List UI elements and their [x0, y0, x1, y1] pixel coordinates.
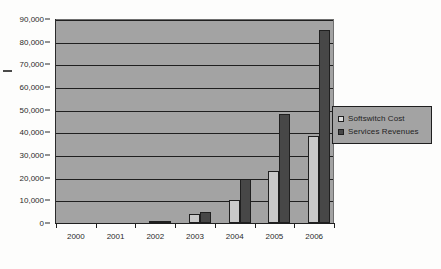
y-axis-tick-label: 40,000	[20, 128, 44, 137]
chart-legend: Softswitch CostServices Revenues	[332, 106, 432, 144]
x-axis-label-2001: 2001	[107, 232, 125, 241]
x-axis-tick-mark	[255, 223, 256, 228]
bar-softswitch-cost-2006	[308, 136, 319, 223]
x-axis-tick-mark	[215, 223, 216, 228]
legend-label: Services Revenues	[348, 127, 419, 136]
x-axis-label-2006: 2006	[305, 232, 323, 241]
bar-chart-figure: 010,00020,00030,00040,00050,00060,00070,…	[0, 0, 441, 269]
bar-group	[294, 19, 334, 223]
y-axis-tick-mark	[45, 177, 50, 178]
legend-label: Softswitch Cost	[348, 114, 405, 123]
x-axis-tick-mark	[175, 223, 176, 228]
bar-group	[96, 19, 136, 223]
bar-softswitch-cost-2005	[268, 171, 279, 223]
x-axis-tick-mark	[294, 223, 295, 228]
y-axis-tick-mark	[45, 87, 50, 88]
bar-softswitch-cost-2004	[229, 200, 240, 223]
legend-item-softswitch-cost[interactable]: Softswitch Cost	[338, 112, 427, 125]
x-axis-labels: 2000200120022003200420052006	[56, 232, 334, 248]
y-axis-tick-label: 30,000	[20, 151, 44, 160]
y-axis-tick-mark	[45, 109, 50, 110]
y-axis-tick-label: 80,000	[20, 37, 44, 46]
x-axis-label-2004: 2004	[226, 232, 244, 241]
legend-item-services-revenues[interactable]: Services Revenues	[338, 125, 427, 138]
y-axis-tick-mark	[45, 64, 50, 65]
y-axis-tick-mark	[45, 200, 50, 201]
y-axis-tick-mark	[45, 223, 50, 224]
y-axis-tick-label: 70,000	[20, 60, 44, 69]
bar-services-revenues-2003	[200, 212, 211, 223]
light-gray-square-icon	[338, 116, 344, 122]
x-axis-tick-mark	[96, 223, 97, 228]
x-axis-tick-mark	[56, 223, 57, 228]
bar-group	[56, 19, 96, 223]
bar-group	[175, 19, 215, 223]
y-axis-tick-label: 20,000	[20, 173, 44, 182]
x-axis-ticks	[56, 223, 334, 229]
bar-services-revenues-2006	[319, 30, 330, 223]
y-axis-tick-label: 90,000	[20, 15, 44, 24]
dark-gray-square-icon	[338, 129, 344, 135]
bar-services-revenues-2005	[279, 114, 290, 223]
y-axis-tick-label: 10,000	[20, 196, 44, 205]
bar-services-revenues-2004	[240, 179, 251, 223]
y-axis-tick-mark	[45, 155, 50, 156]
x-axis-label-2005: 2005	[266, 232, 284, 241]
y-axis-tick-mark	[45, 19, 50, 20]
x-axis-label-2002: 2002	[146, 232, 164, 241]
x-axis-label-2000: 2000	[67, 232, 85, 241]
bar-softswitch-cost-2003	[189, 214, 200, 223]
bar-group	[255, 19, 295, 223]
y-axis-tick-label: 60,000	[20, 83, 44, 92]
y-axis: 010,00020,00030,00040,00050,00060,00070,…	[0, 14, 50, 222]
x-axis-label-2003: 2003	[186, 232, 204, 241]
y-axis-tick-mark	[45, 132, 50, 133]
y-axis-tick-mark	[45, 41, 50, 42]
bar-group	[135, 19, 175, 223]
x-axis-tick-mark	[135, 223, 136, 228]
y-axis-tick-label: 50,000	[20, 105, 44, 114]
bar-groups	[56, 19, 334, 223]
bar-group	[215, 19, 255, 223]
y-axis-tick-label: 0	[40, 219, 44, 228]
x-axis-tick-mark	[334, 223, 335, 228]
